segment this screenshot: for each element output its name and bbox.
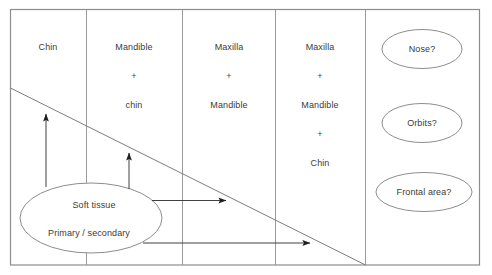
column-mandible-chin-line-3: chin bbox=[126, 100, 143, 111]
column-maxilla-mandible-line-2: + bbox=[226, 71, 231, 82]
node-soft-tissue-label-primary: Soft tissue bbox=[72, 200, 115, 211]
column-maxilla-mandible-chin-line-5: Chin bbox=[311, 158, 330, 169]
column-chin-line-1: Chin bbox=[39, 42, 58, 53]
node-frontal-area-label[interactable]: Frontal area? bbox=[397, 187, 452, 198]
column-maxilla-mandible-line-1: Maxilla bbox=[215, 42, 244, 53]
column-maxilla-mandible-chin-line-4: + bbox=[317, 129, 322, 140]
diagram-canvas: Chin Mandible + chin Maxilla + Mandible … bbox=[0, 0, 492, 275]
column-mandible-chin-line-1: Mandible bbox=[115, 42, 152, 53]
column-maxilla-mandible-chin-line-1: Maxilla bbox=[306, 42, 335, 53]
column-maxilla-mandible-chin-line-2: + bbox=[317, 71, 322, 82]
node-nose-label[interactable]: Nose? bbox=[409, 44, 436, 55]
column-maxilla-mandible-chin-line-3: Mandible bbox=[301, 100, 338, 111]
node-soft-tissue-label-secondary: Primary / secondary bbox=[48, 228, 130, 239]
column-mandible-chin-line-2: + bbox=[131, 71, 136, 82]
node-orbits-label[interactable]: Orbits? bbox=[407, 118, 437, 129]
node-soft-tissue-shape bbox=[20, 183, 162, 253]
column-maxilla-mandible-line-3: Mandible bbox=[210, 100, 247, 111]
